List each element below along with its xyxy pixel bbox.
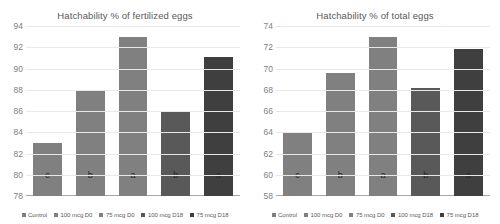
legend-swatch-icon <box>304 213 308 217</box>
gridline <box>276 154 490 155</box>
legend-label: 100 mcg D18 <box>148 212 183 218</box>
gridline <box>276 47 490 48</box>
legend-swatch-icon <box>272 213 276 217</box>
chart-panel-total-eggs: Hatchability % of total eggs 58606264666… <box>250 0 500 224</box>
gridline <box>26 132 240 133</box>
bar[interactable]: a <box>369 37 398 196</box>
legend-item[interactable]: Control <box>272 212 298 218</box>
chart-legend: Control100 mcg D075 mcg D0100 mcg D1875 … <box>250 212 500 218</box>
gridline <box>26 47 240 48</box>
y-axis-tick-label: 72 <box>264 42 273 52</box>
gridline <box>26 175 240 176</box>
legend-item[interactable]: 75 mcg D0 <box>349 212 384 218</box>
chart-title: Hatchability % of total eggs <box>250 10 500 21</box>
y-axis-tick-label: 66 <box>264 106 273 116</box>
gridline <box>276 132 490 133</box>
legend-label: 100 mcg D0 <box>311 212 343 218</box>
y-axis-tick-label: 86 <box>14 106 23 116</box>
legend-item[interactable]: 75 mcg D18 <box>190 212 228 218</box>
bar[interactable]: b <box>326 73 355 196</box>
gridline <box>26 154 240 155</box>
gridline <box>276 111 490 112</box>
legend-swatch-icon <box>22 213 26 217</box>
y-axis-tick-label: 92 <box>14 42 23 52</box>
bar[interactable]: b <box>76 91 105 196</box>
legend-swatch-icon <box>99 213 103 217</box>
legend-label: 75 mcg D0 <box>356 212 385 218</box>
chart-legend: Control100 mcg D075 mcg D0100 mcg D1875 … <box>0 212 250 218</box>
legend-swatch-icon <box>349 213 353 217</box>
legend-label: Control <box>278 212 297 218</box>
y-axis-tick-label: 82 <box>14 149 23 159</box>
gridline <box>26 69 240 70</box>
gridline <box>26 90 240 91</box>
plot-wrapper: 586062646668707274 cbaba <box>250 26 500 196</box>
legend-item[interactable]: 75 mcg D0 <box>99 212 134 218</box>
bar[interactable]: c <box>283 132 312 196</box>
legend-label: 75 mcg D18 <box>197 212 229 218</box>
y-axis-tick-label: 74 <box>264 21 273 31</box>
y-axis-tick-label: 60 <box>264 170 273 180</box>
plot-area: cbaba <box>26 26 240 196</box>
y-axis-tick-label: 68 <box>264 85 273 95</box>
gridline <box>276 26 490 27</box>
y-axis-tick-label: 58 <box>264 191 273 201</box>
plot-wrapper: 788082848688909294 cbaba <box>0 26 250 196</box>
legend-label: 100 mcg D0 <box>61 212 93 218</box>
legend-item[interactable]: 100 mcg D18 <box>391 212 433 218</box>
chart-panel-fertilized-eggs: Hatchability % of fertilized eggs 788082… <box>0 0 250 224</box>
y-axis-tick-label: 62 <box>264 149 273 159</box>
legend-item[interactable]: 100 mcg D0 <box>304 212 342 218</box>
y-axis-tick-label: 64 <box>264 127 273 137</box>
legend-swatch-icon <box>190 213 194 217</box>
chart-title: Hatchability % of fertilized eggs <box>0 10 250 21</box>
y-axis-tick-label: 90 <box>14 64 23 74</box>
legend-swatch-icon <box>141 213 145 217</box>
gridline <box>276 69 490 70</box>
bar[interactable]: b <box>411 88 440 196</box>
plot-area: cbaba <box>276 26 490 196</box>
y-axis-tick-label: 80 <box>14 170 23 180</box>
y-axis-tick-label: 70 <box>264 64 273 74</box>
legend-label: 75 mcg D18 <box>447 212 479 218</box>
bar[interactable]: c <box>33 143 62 196</box>
legend-item[interactable]: 100 mcg D18 <box>141 212 183 218</box>
legend-item[interactable]: 100 mcg D0 <box>54 212 92 218</box>
gridline <box>26 26 240 27</box>
legend-label: Control <box>28 212 47 218</box>
legend-swatch-icon <box>54 213 58 217</box>
y-axis-tick-label: 94 <box>14 21 23 31</box>
legend-item[interactable]: Control <box>22 212 48 218</box>
gridline <box>276 175 490 176</box>
y-axis-tick-label: 88 <box>14 85 23 95</box>
dual-bar-chart-figure: Hatchability % of fertilized eggs 788082… <box>0 0 500 224</box>
legend-label: 75 mcg D0 <box>106 212 135 218</box>
y-axis: 788082848688909294 <box>0 26 26 196</box>
legend-swatch-icon <box>391 213 395 217</box>
legend-label: 100 mcg D18 <box>398 212 433 218</box>
y-axis: 586062646668707274 <box>250 26 276 196</box>
gridline <box>26 111 240 112</box>
y-axis-tick-label: 78 <box>14 191 23 201</box>
legend-swatch-icon <box>440 213 444 217</box>
legend-item[interactable]: 75 mcg D18 <box>440 212 478 218</box>
bar[interactable]: a <box>119 37 148 196</box>
gridline <box>276 90 490 91</box>
y-axis-tick-label: 84 <box>14 127 23 137</box>
